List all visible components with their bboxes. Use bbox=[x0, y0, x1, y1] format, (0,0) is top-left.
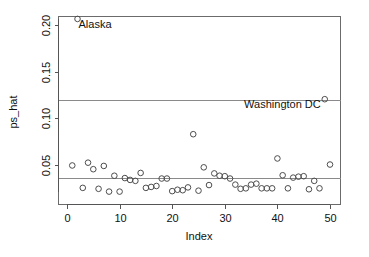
data-point bbox=[248, 182, 254, 188]
data-point bbox=[180, 187, 186, 193]
data-point bbox=[211, 171, 217, 177]
data-point bbox=[322, 96, 328, 102]
x-tick-label: 30 bbox=[219, 212, 231, 224]
data-point bbox=[185, 185, 191, 191]
data-point bbox=[243, 186, 249, 192]
data-point bbox=[306, 186, 312, 192]
y-axis-title: ps_hat bbox=[7, 95, 19, 128]
data-point bbox=[91, 166, 97, 172]
x-tick-label: 20 bbox=[166, 212, 178, 224]
data-point bbox=[101, 163, 107, 169]
x-axis-ticks-group: 01020304050 bbox=[64, 205, 336, 224]
data-point bbox=[217, 173, 223, 179]
data-point bbox=[106, 189, 112, 195]
x-tick-label: 0 bbox=[64, 212, 70, 224]
x-tick-label: 40 bbox=[271, 212, 283, 224]
data-point bbox=[280, 172, 286, 178]
x-axis-title: Index bbox=[186, 230, 213, 242]
data-point bbox=[138, 170, 144, 176]
point-annotations-group: AlaskaWashington DC bbox=[79, 18, 321, 110]
data-point bbox=[238, 186, 244, 192]
data-point bbox=[269, 186, 275, 192]
data-point bbox=[190, 131, 196, 137]
data-point bbox=[154, 183, 160, 189]
y-tick-label: 0.10 bbox=[40, 108, 52, 129]
data-point bbox=[148, 184, 154, 190]
data-point bbox=[169, 188, 175, 194]
data-point bbox=[275, 156, 281, 162]
data-point bbox=[327, 162, 333, 168]
data-point bbox=[206, 182, 212, 188]
data-point bbox=[285, 186, 291, 192]
data-point bbox=[96, 186, 102, 192]
data-point bbox=[233, 182, 239, 188]
point-annotation-label: Washington DC bbox=[244, 98, 321, 110]
data-point bbox=[117, 189, 123, 195]
plot-canvas: 0.050.100.150.20 01020304050 AlaskaWashi… bbox=[0, 0, 369, 257]
y-tick-label: 0.05 bbox=[40, 155, 52, 176]
data-point bbox=[254, 181, 260, 187]
data-point bbox=[175, 187, 181, 193]
y-tick-label: 0.20 bbox=[40, 15, 52, 36]
data-point bbox=[317, 186, 323, 192]
point-annotation-label: Alaska bbox=[79, 18, 113, 30]
data-point bbox=[85, 160, 91, 166]
y-axis-ticks-group: 0.050.100.150.20 bbox=[40, 15, 59, 192]
scatter-plot-figure: 0.050.100.150.20 01020304050 AlaskaWashi… bbox=[0, 0, 369, 257]
data-point bbox=[196, 188, 202, 194]
data-point bbox=[143, 185, 149, 191]
x-tick-label: 50 bbox=[324, 212, 336, 224]
data-point bbox=[69, 163, 75, 169]
plot-frame bbox=[59, 17, 341, 205]
data-point bbox=[127, 177, 133, 183]
data-point bbox=[201, 165, 207, 171]
x-tick-label: 10 bbox=[114, 212, 126, 224]
data-point bbox=[290, 175, 296, 181]
data-point bbox=[80, 185, 86, 191]
y-tick-label: 0.15 bbox=[40, 62, 52, 83]
data-point bbox=[112, 173, 118, 179]
